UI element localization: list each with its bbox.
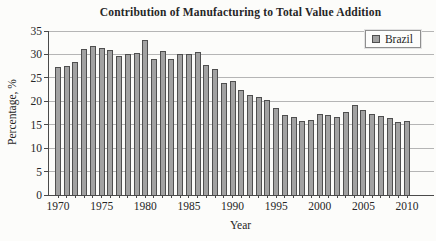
x-tick-label: 1980 bbox=[134, 200, 157, 212]
x-tick bbox=[328, 195, 329, 198]
y-tick-label: 5 bbox=[20, 166, 42, 178]
x-tick bbox=[249, 195, 250, 198]
x-tick-label: 2010 bbox=[396, 200, 419, 212]
x-tick bbox=[276, 195, 277, 198]
bar bbox=[291, 117, 297, 195]
x-tick bbox=[153, 195, 154, 198]
bar bbox=[72, 62, 78, 195]
bar bbox=[212, 69, 218, 196]
bar bbox=[168, 59, 174, 195]
x-tick-label: 1995 bbox=[265, 200, 288, 212]
x-tick bbox=[206, 195, 207, 198]
x-tick bbox=[215, 195, 216, 198]
bar bbox=[334, 117, 340, 195]
x-axis-title: Year bbox=[48, 219, 433, 231]
x-tick bbox=[302, 195, 303, 198]
x-tick-label: 1985 bbox=[177, 200, 200, 212]
bar bbox=[90, 46, 96, 195]
legend: Brazil bbox=[365, 30, 421, 48]
x-tick bbox=[136, 195, 137, 198]
bar bbox=[107, 50, 113, 195]
bar bbox=[369, 114, 375, 195]
x-tick bbox=[84, 195, 85, 198]
x-tick bbox=[145, 195, 146, 198]
bar bbox=[360, 110, 366, 195]
x-tick-label: 1970 bbox=[47, 200, 70, 212]
y-tick-label: 20 bbox=[20, 95, 42, 107]
x-tick bbox=[345, 195, 346, 198]
x-tick-label: 2005 bbox=[352, 200, 375, 212]
bar bbox=[160, 51, 166, 195]
y-tick-label: 30 bbox=[20, 48, 42, 60]
bar bbox=[352, 105, 358, 195]
y-tick-label: 0 bbox=[20, 189, 42, 201]
bar bbox=[238, 90, 244, 195]
bar bbox=[264, 100, 270, 195]
x-tick bbox=[354, 195, 355, 198]
x-tick bbox=[188, 195, 189, 198]
x-tick-label: 1975 bbox=[90, 200, 113, 212]
x-tick bbox=[75, 195, 76, 198]
x-tick bbox=[389, 195, 390, 198]
bar bbox=[273, 108, 279, 195]
x-tick bbox=[284, 195, 285, 198]
x-tick bbox=[232, 195, 233, 198]
bar bbox=[116, 56, 122, 195]
x-tick bbox=[101, 195, 102, 198]
x-tick bbox=[223, 195, 224, 198]
bar bbox=[387, 118, 393, 195]
y-tick bbox=[44, 195, 49, 196]
bar bbox=[282, 115, 288, 195]
bar bbox=[325, 115, 331, 195]
bar bbox=[186, 54, 192, 195]
x-tick bbox=[241, 195, 242, 198]
x-tick bbox=[267, 195, 268, 198]
x-tick bbox=[311, 195, 312, 198]
chart-figure: Contribution of Manufacturing to Total V… bbox=[0, 0, 436, 241]
bar bbox=[151, 59, 157, 195]
bar bbox=[378, 116, 384, 195]
x-tick bbox=[398, 195, 399, 198]
bar bbox=[142, 40, 148, 195]
bar bbox=[55, 67, 61, 195]
y-tick-label: 10 bbox=[20, 142, 42, 154]
bar bbox=[177, 54, 183, 196]
x-tick bbox=[162, 195, 163, 198]
x-tick-label: 2000 bbox=[308, 200, 331, 212]
bar bbox=[195, 52, 201, 195]
x-tick bbox=[127, 195, 128, 198]
x-tick bbox=[119, 195, 120, 198]
x-tick bbox=[258, 195, 259, 198]
x-tick bbox=[197, 195, 198, 198]
x-tick bbox=[92, 195, 93, 198]
plot-area: 0510152025303519701975198019851990199520… bbox=[48, 31, 434, 196]
y-tick-label: 35 bbox=[20, 25, 42, 37]
bar bbox=[81, 49, 87, 195]
y-axis-title: Percentage, % bbox=[6, 32, 20, 192]
bar bbox=[247, 95, 253, 195]
x-tick bbox=[66, 195, 67, 198]
x-tick bbox=[293, 195, 294, 198]
x-tick bbox=[58, 195, 59, 198]
y-tick-label: 15 bbox=[20, 119, 42, 131]
bar bbox=[203, 65, 209, 195]
bar bbox=[308, 120, 314, 195]
bar bbox=[299, 121, 305, 195]
bar bbox=[125, 54, 131, 196]
x-tick bbox=[363, 195, 364, 198]
x-tick bbox=[372, 195, 373, 198]
x-tick bbox=[407, 195, 408, 198]
legend-label-brazil: Brazil bbox=[385, 33, 413, 45]
bar bbox=[395, 122, 401, 195]
x-tick bbox=[337, 195, 338, 198]
x-tick bbox=[110, 195, 111, 198]
bar bbox=[256, 97, 262, 195]
y-tick-label: 25 bbox=[20, 72, 42, 84]
x-tick bbox=[180, 195, 181, 198]
x-tick bbox=[319, 195, 320, 198]
x-tick bbox=[380, 195, 381, 198]
chart-title: Contribution of Manufacturing to Total V… bbox=[48, 6, 433, 18]
legend-marker-brazil bbox=[372, 35, 380, 43]
bar bbox=[343, 112, 349, 195]
bar bbox=[221, 83, 227, 195]
